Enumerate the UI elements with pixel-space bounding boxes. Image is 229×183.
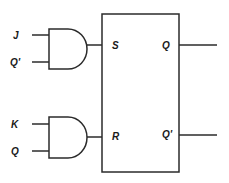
jk-flip-flop-diagram: J Q' K Q S R Q Q': [0, 0, 229, 183]
label-q-input: Q: [11, 146, 19, 157]
label-r: R: [112, 131, 120, 142]
label-s: S: [112, 40, 119, 51]
label-k: K: [11, 119, 19, 130]
sr-flip-flop-block: [102, 14, 179, 172]
label-q-output: Q: [162, 40, 170, 51]
and-gate-bottom: [49, 117, 87, 158]
label-q-prime-input: Q': [10, 57, 21, 68]
label-q-prime-output: Q': [162, 129, 173, 140]
label-j: J: [13, 30, 19, 41]
and-gate-top: [49, 29, 87, 69]
